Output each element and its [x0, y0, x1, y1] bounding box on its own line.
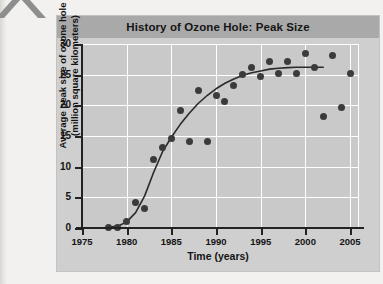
gridline-vertical	[216, 44, 217, 228]
gridline-vertical	[261, 44, 262, 228]
y-axis-tick	[75, 167, 82, 169]
gridline-horizontal	[82, 136, 359, 137]
data-point	[293, 70, 300, 77]
x-axis-tick-label: 1990	[196, 237, 236, 247]
gridline-horizontal	[82, 197, 359, 198]
data-point	[284, 58, 291, 65]
data-point	[311, 64, 318, 71]
x-axis-title: Time (years)	[57, 250, 379, 262]
data-point	[159, 144, 166, 151]
x-axis-tick	[216, 229, 218, 235]
data-point	[266, 58, 273, 65]
gridline-horizontal	[82, 167, 359, 168]
data-point	[168, 135, 175, 142]
data-point	[204, 138, 211, 145]
gridline-horizontal	[82, 44, 359, 45]
data-point	[347, 70, 354, 77]
x-axis-tick	[261, 229, 263, 235]
x-axis-tick-label: 1980	[107, 237, 147, 247]
y-axis-tick-label: 5	[49, 192, 71, 202]
chart-figure: History of Ozone Hole: Peak Size 0510152…	[57, 16, 379, 271]
gridline-vertical	[127, 44, 128, 228]
x-axis-line	[76, 227, 364, 229]
data-point	[320, 113, 327, 120]
data-point	[329, 52, 336, 59]
x-axis-tick	[350, 229, 352, 235]
x-axis-tick	[171, 229, 173, 235]
data-point	[141, 205, 148, 212]
x-axis-tick	[82, 229, 84, 235]
x-axis-tick-label: 1985	[151, 237, 191, 247]
scan-edge	[0, 0, 7, 284]
gridline-horizontal	[82, 75, 359, 76]
data-point	[239, 71, 246, 78]
data-point	[257, 73, 264, 80]
x-axis-tick-label: 2005	[330, 237, 370, 247]
y-axis-tick-label: 0	[49, 223, 71, 233]
gridline-horizontal	[82, 105, 359, 106]
x-axis-tick-label: 1995	[241, 237, 281, 247]
data-point	[230, 82, 237, 89]
y-axis-title: Average peak size of ozone hole (million…	[57, 0, 80, 166]
x-axis-tick-label: 2000	[285, 237, 325, 247]
data-point	[177, 107, 184, 114]
data-point	[186, 138, 193, 145]
caret-arrow-icon	[0, 0, 52, 24]
data-point	[132, 199, 139, 206]
data-point	[248, 64, 255, 71]
data-point	[150, 156, 157, 163]
plot-area	[82, 44, 359, 228]
chart-title: History of Ozone Hole: Peak Size	[57, 16, 379, 38]
x-axis-tick	[127, 229, 129, 235]
x-axis-tick-label: 1975	[62, 237, 102, 247]
data-point	[338, 104, 345, 111]
data-point	[195, 87, 202, 94]
gridline-vertical	[305, 44, 306, 228]
data-point	[123, 218, 130, 225]
x-axis-tick	[305, 229, 307, 235]
y-axis-tick	[75, 228, 82, 230]
data-point	[221, 98, 228, 105]
data-point	[302, 50, 309, 57]
y-axis-tick	[75, 197, 82, 199]
data-point	[213, 92, 220, 99]
data-point	[275, 70, 282, 77]
